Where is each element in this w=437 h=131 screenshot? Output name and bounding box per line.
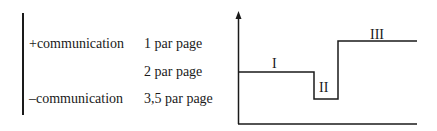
step-chart [0,0,437,131]
y-axis [236,11,242,124]
segment-label-iii: III [370,27,384,43]
arrow-up-icon [236,11,242,19]
segment-label-i: I [272,56,277,72]
segment-label-ii: II [319,80,328,96]
